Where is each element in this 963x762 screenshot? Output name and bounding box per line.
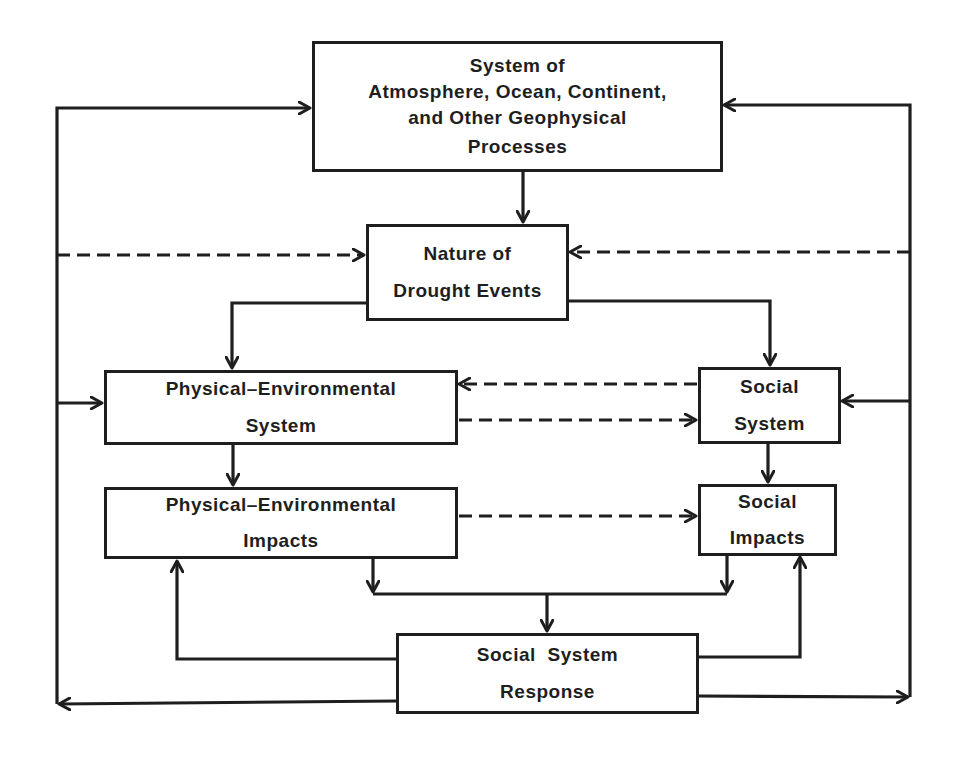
node-social-system: Social System: [698, 367, 841, 444]
node-label-line: Impacts: [243, 523, 318, 559]
drought-system-diagram: System of Atmosphere, Ocean, Continent, …: [0, 0, 963, 762]
edge-response-to-phys-impacts: [177, 561, 396, 659]
node-label-line: Social: [740, 369, 799, 405]
edge-drought-to-social-system: [568, 301, 770, 365]
node-label-line: Physical–Environmental: [166, 371, 397, 407]
edge-drought-to-phys-system: [232, 303, 366, 368]
node-geophysical-processes: System of Atmosphere, Ocean, Continent, …: [312, 41, 723, 172]
node-label-line: Processes: [468, 134, 568, 160]
node-label-line: and Other Geophysical: [408, 105, 627, 131]
node-label-line: Nature of: [424, 236, 512, 272]
node-label-line: Drought Events: [393, 273, 541, 309]
node-label-line: System: [734, 406, 805, 442]
node-social-system-response: Social System Response: [396, 633, 699, 714]
node-physical-environmental-system: Physical–Environmental System: [104, 370, 458, 445]
node-label-line: Impacts: [730, 520, 805, 556]
node-label-line: Physical–Environmental: [166, 487, 397, 523]
node-label-line: Atmosphere, Ocean, Continent,: [368, 79, 666, 105]
edge-response-to-right-rail: [698, 696, 908, 697]
node-physical-environmental-impacts: Physical–Environmental Impacts: [104, 487, 458, 559]
edge-response-to-social-impacts: [698, 557, 800, 657]
node-label-line: Social System: [477, 637, 618, 673]
node-label-line: System of: [470, 53, 565, 79]
edge-response-to-left-rail: [59, 701, 396, 704]
node-label-line: System: [246, 408, 317, 444]
node-drought-events: Nature of Drought Events: [366, 224, 569, 321]
node-social-impacts: Social Impacts: [698, 484, 837, 556]
node-label-line: Social: [738, 484, 797, 520]
node-label-line: Response: [500, 674, 595, 710]
